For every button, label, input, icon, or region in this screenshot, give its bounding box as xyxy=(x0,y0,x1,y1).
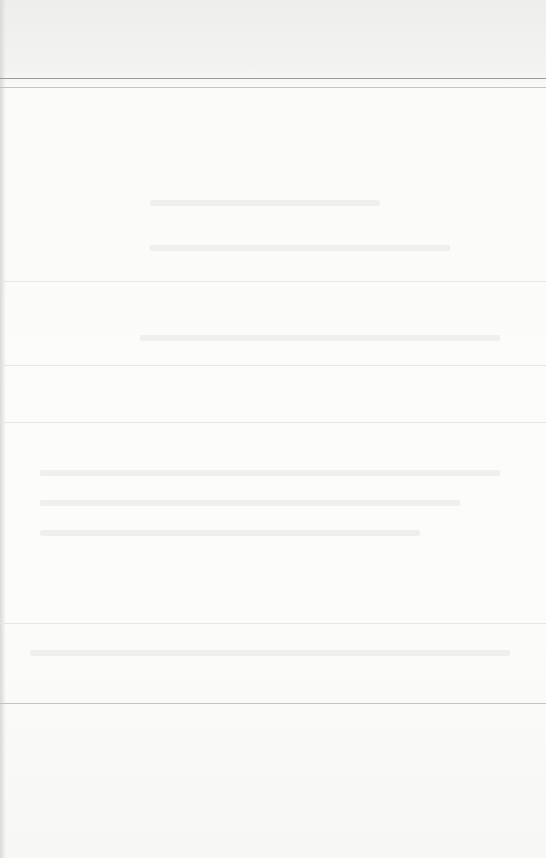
bleed-through-text-block xyxy=(140,335,500,341)
bottom-rule xyxy=(0,703,546,704)
faint-rule xyxy=(0,365,546,366)
scanned-page xyxy=(0,0,546,858)
page-edge-shadow xyxy=(0,0,6,858)
bleed-through-text-block xyxy=(150,245,450,251)
faint-rule xyxy=(0,281,546,282)
bleed-through-text-block xyxy=(40,470,500,476)
bleed-through-text-block xyxy=(40,530,420,536)
top-rule-lower xyxy=(0,87,546,88)
bleed-through-text-block xyxy=(40,500,460,506)
faint-rule xyxy=(0,623,546,624)
faint-rule xyxy=(0,422,546,423)
bleed-through-text-block xyxy=(30,650,510,656)
top-rule-upper xyxy=(0,78,546,79)
bleed-through-text-block xyxy=(150,200,380,206)
